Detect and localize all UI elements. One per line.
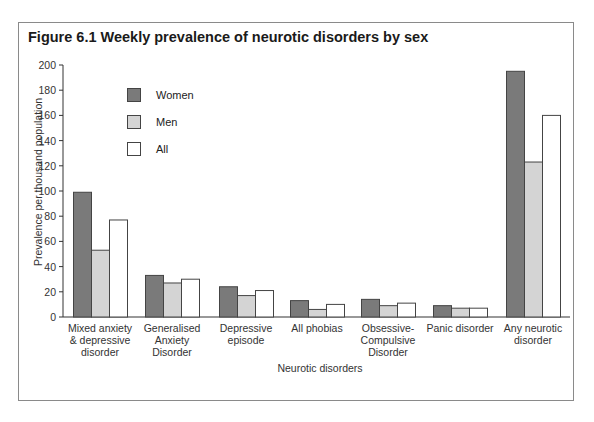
bar-all [327, 304, 345, 317]
bar-all [470, 308, 488, 317]
bar-women [74, 192, 92, 317]
bar-men [452, 308, 470, 317]
y-tick-label: 180 [38, 84, 56, 96]
category-label: Any neuroticdisorder [494, 322, 572, 346]
legend-label-women: Women [156, 89, 194, 101]
category-label: GeneralisedAnxietyDisorder [133, 322, 211, 358]
category-label: All phobias [278, 322, 356, 334]
bar-women [146, 275, 164, 317]
category-label: Depressiveepisode [207, 322, 285, 346]
legend-swatch-men [127, 115, 141, 129]
legend-swatch-all [127, 142, 141, 156]
y-tick-label: 140 [38, 135, 56, 147]
bar-women [507, 71, 525, 317]
legend-item-women: Women [127, 88, 194, 102]
legend-label-all: All [156, 143, 168, 155]
bar-men [238, 296, 256, 317]
bar-women [434, 306, 452, 317]
y-tick-label: 120 [38, 160, 56, 172]
bar-women [220, 287, 238, 317]
bar-men [309, 309, 327, 317]
y-tick-label: 80 [44, 210, 56, 222]
y-tick-label: 60 [44, 235, 56, 247]
plot-area: 020406080100120140160180200 [0, 0, 594, 422]
legend-item-men: Men [127, 115, 177, 129]
bar-all [182, 279, 200, 317]
y-tick-label: 160 [38, 109, 56, 121]
category-label: Panic disorder [421, 322, 499, 334]
bar-all [543, 115, 561, 317]
bar-men [92, 250, 110, 317]
y-tick-label: 0 [50, 311, 56, 323]
bar-women [362, 299, 380, 317]
bar-women [291, 301, 309, 317]
bar-men [164, 283, 182, 317]
category-label: Mixed anxiety& depressivedisorder [61, 322, 139, 358]
bar-men [525, 162, 543, 317]
y-tick-label: 40 [44, 261, 56, 273]
y-tick-label: 100 [38, 185, 56, 197]
bar-all [398, 303, 416, 317]
category-label: Obsessive-CompulsiveDisorder [349, 322, 427, 358]
y-tick-label: 200 [38, 59, 56, 71]
legend-item-all: All [127, 142, 168, 156]
legend-label-men: Men [156, 116, 177, 128]
bar-all [110, 220, 128, 317]
legend-swatch-women [127, 88, 141, 102]
bar-all [256, 291, 274, 317]
bar-men [380, 306, 398, 317]
y-tick-label: 20 [44, 286, 56, 298]
